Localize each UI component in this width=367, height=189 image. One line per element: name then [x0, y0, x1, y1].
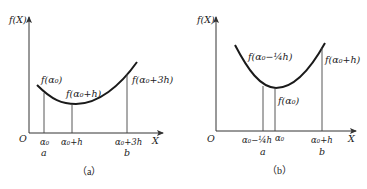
curve-label-middle: f(α₀) [277, 95, 299, 106]
y-axis-label: f(X) [196, 14, 215, 25]
x-tick-label: α₀+h [311, 135, 333, 145]
curve-label-left: f(α₀−¼h) [247, 51, 293, 62]
origin-label: O [207, 133, 215, 144]
x-tick-label: α₀−¼h [242, 135, 272, 145]
curve-label-middle: f(α₀+h) [65, 88, 102, 99]
x-axis-label: X [151, 135, 160, 146]
x-axis-label: X [347, 133, 356, 144]
diagram-canvas: f(X) O X f(α₀) f(α₀+h) f(α₀+3h) α₀ α₀+h … [0, 0, 367, 189]
x-tick-sublabel: a [260, 146, 266, 157]
function-curve [235, 43, 325, 88]
curve-label-right: f(α₀+h) [324, 54, 361, 65]
origin-label: O [19, 133, 27, 144]
panel-b: f(X) O X f(α₀−¼h) f(α₀) f(α₀+h) α₀−¼h α₀… [196, 14, 361, 176]
panel-a: f(X) O X f(α₀) f(α₀+h) f(α₀+3h) α₀ α₀+h … [8, 14, 174, 177]
x-tick-label: α₀ [40, 137, 50, 147]
x-tick-sublabel: a [41, 147, 47, 158]
x-tick-sublabel: b [124, 147, 130, 158]
panel-caption: （a） [77, 166, 101, 177]
x-tick-label: α₀+h [61, 137, 83, 147]
curve-label-left: f(α₀) [40, 74, 62, 85]
curve-label-right: f(α₀+3h) [131, 74, 174, 85]
x-tick-label: α₀ [275, 133, 285, 143]
panel-caption: （b） [267, 165, 292, 176]
x-tick-label: α₀+3h [115, 137, 142, 147]
y-axis-label: f(X) [8, 14, 27, 25]
x-tick-sublabel: b [319, 146, 325, 157]
